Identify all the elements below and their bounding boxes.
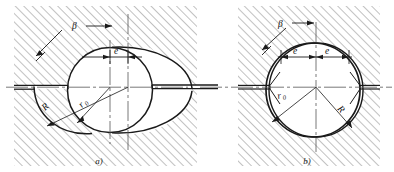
label-beta-a: β	[71, 21, 77, 31]
engineering-drawing: β e R r 0 a)	[0, 0, 394, 172]
subfigure-a: β e R r 0 a)	[6, 6, 218, 166]
label-beta-b: β	[277, 19, 283, 29]
label-e-left-b: e	[293, 46, 297, 56]
subfigure-b: β e e r 0 R b)	[200, 6, 392, 166]
label-e-a: e	[114, 46, 118, 56]
label-e-right-b: e	[325, 46, 329, 56]
caption-a: a)	[95, 156, 103, 166]
figure-container: β e R r 0 a)	[0, 0, 394, 172]
caption-b: b)	[303, 156, 311, 166]
